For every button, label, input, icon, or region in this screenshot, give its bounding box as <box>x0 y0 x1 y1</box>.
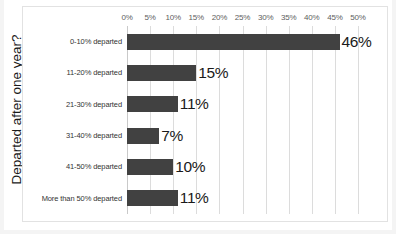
bar-chart: Departed after one year? 0%5%10%15%20%25… <box>0 0 396 234</box>
bar-value-label: 46% <box>342 33 372 51</box>
bar-rows: 0-10% departed46%11-20% departed15%21-30… <box>127 26 358 214</box>
x-tick-label: 5% <box>145 13 156 22</box>
category-label: 11-20% departed <box>67 68 123 77</box>
page-edge-bottom <box>0 230 396 234</box>
x-tick-label: 35% <box>281 13 296 22</box>
bar-row[interactable]: 41-50% departed10% <box>127 151 358 182</box>
x-tick-label: 25% <box>235 13 250 22</box>
chart-title <box>0 0 396 3</box>
bar[interactable] <box>127 128 159 144</box>
bar-row[interactable]: 21-30% departed11% <box>127 89 358 120</box>
x-tick-label: 40% <box>304 13 319 22</box>
bar[interactable] <box>127 65 196 81</box>
bar-value-label: 15% <box>198 64 228 82</box>
bar-row[interactable]: 0-10% departed46% <box>127 26 358 57</box>
bar[interactable] <box>127 34 340 50</box>
x-tick-label: 0% <box>121 13 132 22</box>
x-axis-tick-labels: 0%5%10%15%20%25%30%35%40%45%50% <box>127 13 358 25</box>
bar-value-label: 11% <box>180 189 209 207</box>
category-label: More than 50% departed <box>42 194 122 203</box>
category-label: 41-50% departed <box>66 162 122 171</box>
page-edge-right <box>392 0 396 234</box>
x-tick-label: 20% <box>212 13 227 22</box>
x-tick-label: 45% <box>327 13 342 22</box>
page-edge-left <box>0 0 4 234</box>
bar-value-label: 7% <box>161 127 183 145</box>
plot-area: 0-10% departed46%11-20% departed15%21-30… <box>127 26 358 214</box>
bar[interactable] <box>127 159 173 175</box>
x-tick-label: 50% <box>350 13 365 22</box>
x-tick-label: 15% <box>189 13 204 22</box>
bar[interactable] <box>127 190 178 206</box>
bar-value-label: 11% <box>180 95 209 113</box>
category-label: 0-10% departed <box>70 37 122 46</box>
x-tick-label: 10% <box>165 13 180 22</box>
bar-value-label: 10% <box>175 158 205 176</box>
bar-row[interactable]: 31-40% departed7% <box>127 120 358 151</box>
bar[interactable] <box>127 96 178 112</box>
category-label: 21-30% departed <box>66 100 122 109</box>
category-label: 31-40% departed <box>66 131 122 140</box>
bar-row[interactable]: 11-20% departed15% <box>127 57 358 88</box>
bar-row[interactable]: More than 50% departed11% <box>127 183 358 214</box>
x-tick-label: 30% <box>258 13 273 22</box>
